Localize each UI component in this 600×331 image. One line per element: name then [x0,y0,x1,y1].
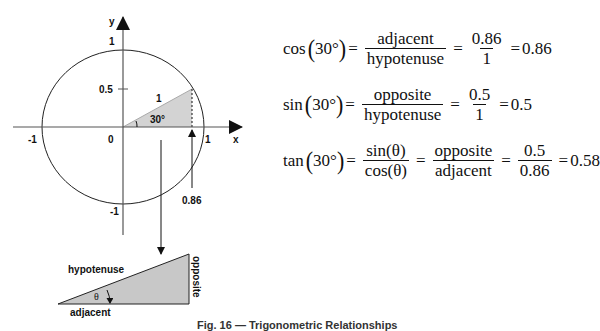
triangle-theta-label: θ [94,291,99,302]
sin-value-fraction: 0.51 [467,86,492,123]
tick-origin: 0 [108,134,114,145]
equals: = [348,39,358,59]
denominator: hypotenuse [365,48,446,67]
tan-arg: 30° [313,151,337,171]
equals: = [499,95,509,115]
cos-ratio-fraction: adjacenthypotenuse [365,30,446,67]
paren-open: ( [305,92,312,117]
equals: = [346,151,356,171]
cos-arg: 30° [315,39,339,59]
numerator: opposite [372,86,434,104]
tick-y-neg: -1 [110,206,119,217]
triangle-opposite-label: opposite [191,256,202,298]
tick-x-pos: 1 [205,134,211,145]
cos-formula: cos (30°) = adjacenthypotenuse = 0.861 =… [283,30,552,67]
numerator: adjacent [375,30,436,48]
paren-open: ( [306,148,313,173]
numerator: 0.86 [470,30,504,48]
denominator: 1 [473,104,486,123]
sin-arg: 30° [312,95,336,115]
paren-close: ) [339,36,346,61]
denominator: adjacent [433,160,494,179]
equals: = [501,151,511,171]
sin-fn: sin [283,95,303,115]
cos-result: 0.86 [522,39,552,59]
triangle-hypotenuse-label: hypotenuse [68,264,125,275]
triangle-adjacent-label: adjacent [70,307,111,318]
equals: = [450,95,460,115]
paren-close: ) [336,92,343,117]
tan-result: 0.58 [570,151,600,171]
equals: = [453,39,463,59]
denominator: 0.86 [518,160,552,179]
numerator: 0.5 [522,142,547,160]
numerator: opposite [433,142,495,160]
tan-fn: tan [283,151,304,171]
denominator: hypotenuse [362,104,443,123]
figure-caption: Fig. 16 — Trigonometric Relationships [197,319,397,331]
tan-identity-fraction: sin(θ)cos(θ) [363,142,409,179]
numerator: 0.5 [467,86,492,104]
denominator: 1 [480,48,493,67]
tick-y-pos: 1 [109,36,115,47]
sin-formula: sin (30°) = oppositehypotenuse = 0.51 = … [283,86,532,123]
equals: = [511,39,521,59]
tan-formula: tan (30°) = sin(θ)cos(θ) = oppositeadjac… [283,142,600,179]
equals: = [559,151,569,171]
tan-value-fraction: 0.50.86 [518,142,552,179]
cos-value-fraction: 0.861 [470,30,504,67]
angle-value-label: 30° [150,114,165,125]
numerator: sin(θ) [364,142,407,160]
hypotenuse-value-label: 1 [156,93,162,104]
sin-result: 0.5 [511,95,532,115]
sin-ratio-fraction: oppositehypotenuse [362,86,443,123]
denominator: cos(θ) [363,160,409,179]
paren-close: ) [337,148,344,173]
tick-x-neg: -1 [28,134,37,145]
paren-open: ( [308,36,315,61]
tan-ratio-fraction: oppositeadjacent [433,142,495,179]
cos-fn: cos [283,39,306,59]
x-axis-label: x [233,134,239,145]
equals: = [416,151,426,171]
right-triangle [58,254,189,304]
y-axis-label: y [109,16,115,27]
equals: = [345,95,355,115]
cos-value-label: 0.86 [182,195,202,206]
tick-y-half: 0.5 [99,84,113,95]
